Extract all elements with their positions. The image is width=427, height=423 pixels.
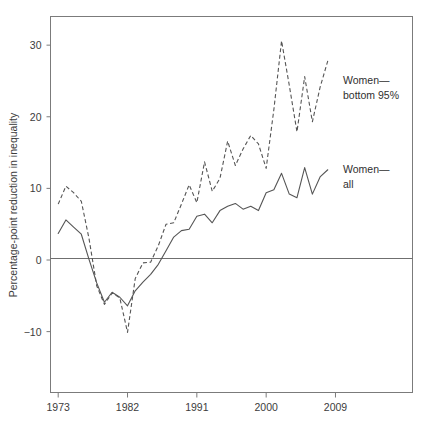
series-label-women-all-line1: Women— [343, 163, 390, 175]
y-tick-label: 30 [30, 39, 42, 51]
series-label-women-all-line2: all [343, 178, 354, 190]
series-label-women-bottom-95-line1: Women— [343, 74, 390, 86]
y-tick-label: 20 [30, 111, 42, 123]
x-tick-label: 1973 [47, 401, 71, 413]
y-tick-label: 10 [30, 182, 42, 194]
chart-background [0, 0, 427, 423]
x-tick-label: 2009 [324, 401, 348, 413]
x-tick-label: 1982 [116, 401, 140, 413]
line-chart: −100102030 19731982199120002009 Percenta… [0, 0, 427, 423]
series-label-women-bottom-95-line2: bottom 95% [343, 89, 399, 101]
x-tick-label: 1991 [185, 401, 209, 413]
y-axis-title: Percentage-point reduction in inequality [7, 112, 19, 297]
y-tick-label: −10 [24, 326, 42, 338]
x-tick-label: 2000 [254, 401, 278, 413]
chart-figure: −100102030 19731982199120002009 Percenta… [0, 0, 427, 423]
y-tick-label: 0 [36, 254, 42, 266]
